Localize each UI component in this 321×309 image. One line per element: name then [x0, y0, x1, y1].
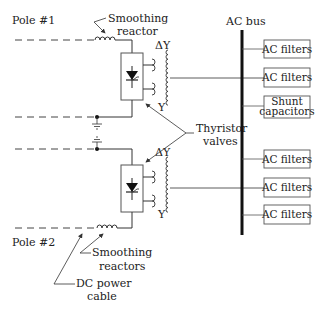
svg-text:AC filters: AC filters — [261, 181, 312, 193]
svg-text:AC filters: AC filters — [261, 71, 312, 83]
smoothing-reactor-label-line2: reactor — [117, 25, 159, 38]
thyristor-icon — [126, 66, 139, 88]
thyristor-valves-label-line1: Thyristor — [196, 122, 248, 135]
ac-filter-box-5: AC filters — [261, 205, 312, 224]
delta-symbol-1: Δ — [155, 39, 163, 52]
smoothing-reactor-icon — [95, 37, 115, 40]
transformer-2 — [152, 157, 168, 212]
svg-text:capacitors: capacitors — [259, 105, 314, 117]
hvdc-diagram: Pole #1 Smoothing reactor Δ Y Y — [0, 0, 321, 309]
ac-filter-box-2: AC filters — [261, 68, 312, 87]
ac-filter-box-3: AC filters — [261, 150, 312, 168]
wye-symbol-1: Y — [162, 39, 171, 52]
shunt-capacitors-box: Shunt capacitors — [259, 95, 314, 118]
dc-power-cable-label-line1: DC power — [76, 277, 132, 290]
thyristor-valves-label-line2: valves — [202, 135, 238, 148]
smoothing-reactor-label-line1: Smoothing — [108, 12, 168, 25]
pole2-label: Pole #2 — [12, 236, 55, 249]
smoothing-reactors-label-line2: reactors — [99, 260, 146, 273]
wye-symbol-2: Y — [162, 146, 171, 159]
transformer-1 — [152, 50, 168, 105]
ground-icon-2 — [92, 137, 102, 149]
smoothing-reactors-label-line1: Smoothing — [92, 246, 152, 259]
pole1-label: Pole #1 — [12, 14, 55, 27]
smoothing-reactor-icon-2 — [97, 225, 117, 228]
thyristor-icon — [126, 178, 139, 200]
ac-filter-box-4: AC filters — [261, 178, 312, 197]
wye-symbol-1b: Y — [157, 101, 166, 114]
ac-filter-box-1: AC filters — [261, 40, 312, 58]
smoothing-reactor-arrow — [94, 18, 106, 33]
svg-text:AC filters: AC filters — [261, 43, 312, 55]
ac-bus-label: AC bus — [225, 15, 266, 28]
wye-symbol-2b: Y — [157, 208, 166, 221]
svg-text:AC filters: AC filters — [261, 153, 312, 165]
ground-icon-1 — [92, 117, 102, 129]
svg-text:AC filters: AC filters — [261, 208, 312, 220]
dc-power-cable-label-line2: cable — [87, 290, 117, 303]
